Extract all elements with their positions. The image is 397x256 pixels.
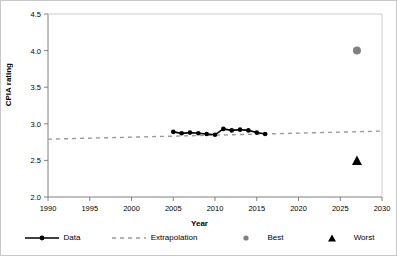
y-tick-label-3-0: 3.0	[15, 120, 41, 129]
x-tick-marks	[48, 197, 382, 201]
legend-item-best: Best	[229, 233, 284, 243]
data-point	[221, 127, 226, 132]
y-tick-label-4-5: 4.5	[15, 10, 41, 19]
x-tick-label-2015: 2015	[237, 204, 277, 213]
x-tick-label-2010: 2010	[195, 204, 235, 213]
y-tick-label-4-0: 4.0	[15, 47, 41, 56]
data-point	[213, 132, 218, 137]
data-point	[188, 130, 193, 135]
x-tick-label-2020: 2020	[279, 204, 319, 213]
y-tick-label-2-0: 2.0	[15, 193, 41, 202]
x-tick-label-1990: 1990	[28, 204, 68, 213]
legend-label-data: Data	[64, 234, 81, 242]
data-point	[238, 127, 243, 132]
y-axis-title: CPIA rating	[4, 63, 18, 106]
x-tick-label-2025: 2025	[320, 204, 360, 213]
x-tick-label-2005: 2005	[153, 204, 193, 213]
legend-label-best: Best	[268, 234, 284, 242]
worst-marker	[352, 155, 362, 165]
legend-label-extrapolation: Extrapolation	[151, 234, 198, 242]
data-point	[204, 132, 209, 137]
dashed-line-icon	[112, 233, 146, 243]
x-tick-label-2030: 2030	[362, 204, 397, 213]
data-point	[263, 132, 268, 137]
black-triangle-marker-icon	[315, 233, 349, 243]
x-tick-label-2000: 2000	[112, 204, 152, 213]
y-tick-marks	[44, 14, 48, 197]
chart-plot-svg	[1, 1, 397, 256]
best-marker	[353, 47, 361, 55]
legend-item-extrapolation: Extrapolation	[112, 233, 198, 243]
x-axis-title: Year	[1, 219, 397, 228]
data-point	[229, 128, 234, 133]
legend-item-worst: Worst	[315, 233, 375, 243]
data-point	[171, 130, 176, 135]
data-point	[246, 128, 251, 133]
chart-legend: Data Extrapolation Best	[9, 233, 390, 243]
gray-circle-marker-icon	[229, 233, 263, 243]
data-point	[196, 131, 201, 136]
data-point	[179, 131, 184, 136]
legend-item-data: Data	[25, 233, 81, 243]
solid-line-with-marker-icon	[25, 233, 59, 243]
legend-label-worst: Worst	[354, 234, 375, 242]
chart-container: 4.5 4.0 3.5 3.0 2.5 2.0 1990 1995 2000 2…	[0, 0, 397, 256]
data-point	[254, 130, 259, 135]
y-tick-label-2-5: 2.5	[15, 156, 41, 165]
y-tick-label-3-5: 3.5	[15, 83, 41, 92]
x-tick-label-1995: 1995	[70, 204, 110, 213]
